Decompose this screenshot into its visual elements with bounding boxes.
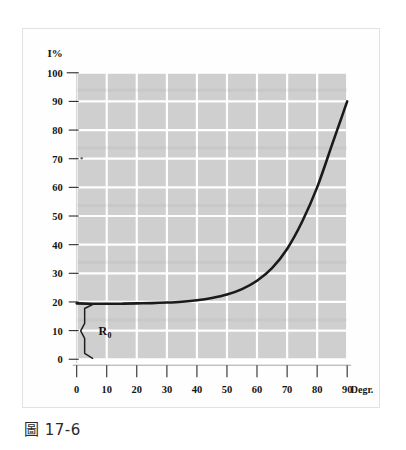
x-tick-label: 0 — [74, 384, 79, 395]
x-axis-ticks — [77, 365, 347, 377]
y-axis-title: I% — [48, 47, 63, 59]
x-tick-label: 60 — [252, 384, 262, 395]
y-axis-tick-labels: 100 90 80 70 60 50 40 30 20 10 0 — [47, 68, 63, 365]
x-tick-label: 80 — [312, 384, 322, 395]
x-tick-label: 50 — [222, 384, 232, 395]
y-tick-label: 70 — [52, 154, 62, 165]
y-tick-label: 10 — [52, 326, 62, 337]
y-tick-label: 0 — [58, 354, 63, 365]
y-tick-label: 40 — [52, 240, 62, 251]
y-tick-label: 100 — [47, 68, 63, 79]
y-tick-label: 80 — [52, 125, 62, 136]
x-tick-label: 40 — [192, 384, 202, 395]
y-tick-label: 90 — [52, 96, 62, 107]
x-axis-title: Degr. — [351, 384, 374, 395]
x-tick-label: 30 — [162, 384, 172, 395]
caption-number: 17-6 — [45, 421, 81, 439]
scan-speck — [80, 157, 82, 159]
y-tick-label: 60 — [52, 182, 62, 193]
y-tick-label: 30 — [52, 268, 62, 279]
r0-label: R — [99, 324, 108, 338]
x-axis-tick-labels: 0 10 20 30 40 50 60 70 80 90 — [74, 384, 352, 395]
figure-caption: 圖 17-6 — [24, 418, 81, 439]
x-tick-label: 20 — [132, 384, 142, 395]
r0-label-subscript: 0 — [108, 331, 112, 340]
caption-prefix: 圖 — [24, 421, 40, 439]
x-tick-label: 70 — [282, 384, 292, 395]
x-tick-label: 10 — [102, 384, 112, 395]
chart-canvas: 100 90 80 70 60 50 40 30 20 10 0 I% — [23, 29, 379, 407]
y-tick-label: 20 — [52, 297, 62, 308]
figure-frame: 100 90 80 70 60 50 40 30 20 10 0 I% — [22, 28, 380, 408]
y-tick-label: 50 — [52, 211, 62, 222]
